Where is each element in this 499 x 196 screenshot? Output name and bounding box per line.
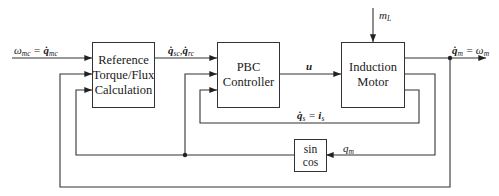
pbc-controller-block: PBCController xyxy=(217,42,280,108)
motor-label-2: Motor xyxy=(357,75,388,89)
pbc-label-2: Controller xyxy=(223,75,274,89)
control-signal-label: u xyxy=(306,60,312,72)
trig-to-pbc-line xyxy=(185,74,217,155)
induction-motor-block: InductionMotor xyxy=(341,42,405,108)
output-signal-label: q̇m = ωm xyxy=(452,44,489,60)
ref-label-1: Reference xyxy=(98,53,149,67)
current-feedback-label: q̇s = is xyxy=(297,109,324,125)
input-signal-label: ωmc = q̇mc xyxy=(14,44,58,60)
reference-output-label: q̇sc,q̇rc xyxy=(168,44,194,60)
ref-label-2: Torque/Flux xyxy=(93,68,155,82)
trig-label-1: sin xyxy=(304,143,317,155)
motor-label-1: Induction xyxy=(349,60,397,74)
reference-torque-flux-block: ReferenceTorque/FluxCalculation xyxy=(92,42,155,108)
load-torque-label: mL xyxy=(379,9,391,25)
ref-label-3: Calculation xyxy=(95,83,153,97)
trig-junction-dot xyxy=(183,153,187,157)
trig-label-2: cos xyxy=(303,156,318,168)
position-signal-label: qm xyxy=(343,142,354,158)
sin-cos-block: sincos xyxy=(294,139,327,172)
pbc-label-1: PBC xyxy=(237,60,261,74)
